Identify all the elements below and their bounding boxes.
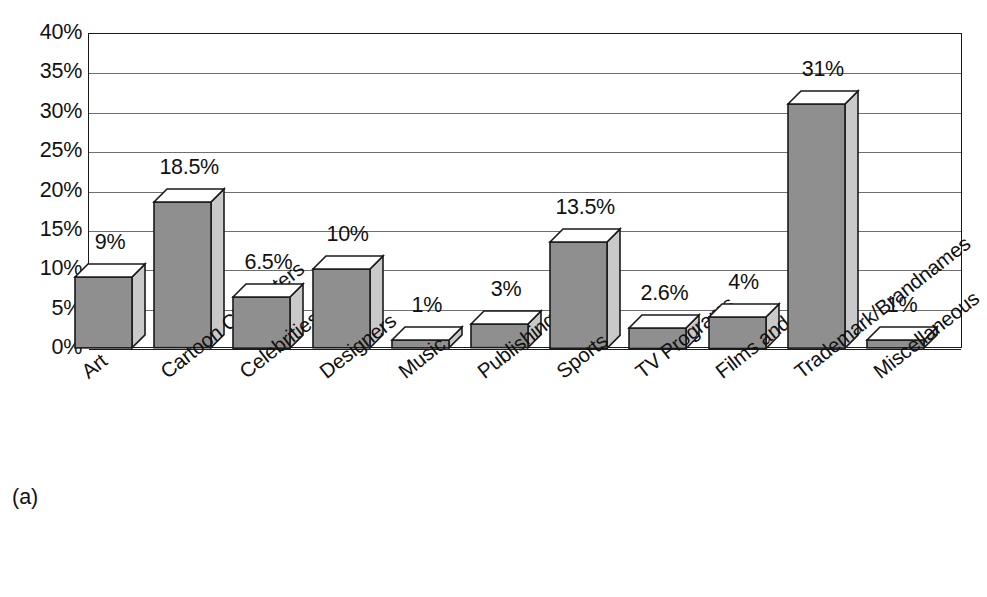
y-axis-tick-label: 15% (8, 219, 82, 241)
y-axis-tick-label: 35% (8, 61, 82, 83)
figure-caption: (a) (12, 487, 38, 509)
gridline-0 (89, 349, 961, 350)
y-axis-tick-label: 25% (8, 140, 82, 162)
y-axis-tick-label: 40% (8, 22, 82, 44)
y-axis-tick-label: 0% (8, 337, 82, 359)
y-axis-tick-label: 10% (8, 258, 82, 280)
gridline-30 (89, 113, 961, 114)
plot-area (88, 33, 962, 348)
gridline-25 (89, 152, 961, 153)
gridline-15 (89, 231, 961, 232)
x-axis-label-art: Art (78, 350, 111, 382)
y-axis-tick-label: 20% (8, 180, 82, 202)
gridline-35 (89, 73, 961, 74)
figure-panel: 40%35%30%25%20%15%10%5%0% 9%Art18.5%Cart… (0, 0, 987, 597)
y-axis-tick-label: 5% (8, 298, 82, 320)
y-axis-tick-label: 30% (8, 101, 82, 123)
gridline-20 (89, 192, 961, 193)
gridline-10 (89, 270, 961, 271)
gridline-5 (89, 310, 961, 311)
